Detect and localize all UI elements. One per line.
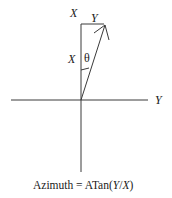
azimuth-diagram: X Y X θ Y Azimuth = ATan(Y/X) [0,0,172,198]
theta-label: θ [84,51,90,65]
formula-suffix: ) [129,179,133,192]
formula-prefix: Azimuth = ATan( [33,179,113,192]
azimuth-formula: Azimuth = ATan(Y/X) [33,179,133,192]
x-component-label: X [67,52,76,66]
y-component-label: Y [91,11,99,25]
vertical-axis-label: X [69,6,78,20]
horizontal-axis-label: Y [155,93,163,107]
theta-arc [81,68,89,70]
arrowhead-icon [94,25,109,40]
